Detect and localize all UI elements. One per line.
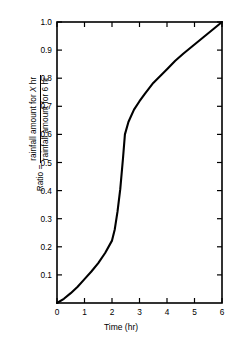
rainfall-ratio-chart-figure: 0.10.20.30.40.50.60.70.80.91.0 0123456 R… bbox=[0, 0, 242, 343]
x-tick-label: 3 bbox=[133, 308, 147, 316]
x-tick-label: 5 bbox=[188, 308, 202, 316]
y-tick-label: 0.7 bbox=[28, 102, 52, 110]
y-tick-label: 0.4 bbox=[28, 187, 52, 195]
y-tick-label: 0.1 bbox=[28, 271, 52, 279]
x-tick-label: 6 bbox=[215, 308, 229, 316]
x-tick-label: 2 bbox=[105, 308, 119, 316]
x-tick-label: 4 bbox=[160, 308, 174, 316]
y-tick-label: 0.3 bbox=[28, 215, 52, 223]
x-axis-tick-marks bbox=[57, 22, 222, 303]
x-tick-label: 0 bbox=[50, 308, 64, 316]
rainfall-ratio-curve bbox=[57, 22, 222, 303]
x-axis-label: Time (hr) bbox=[0, 322, 242, 332]
y-tick-label: 0.2 bbox=[28, 243, 52, 251]
y-axis-tick-marks bbox=[57, 22, 222, 275]
y-tick-label: 0.5 bbox=[28, 159, 52, 167]
axis-frame bbox=[57, 22, 222, 303]
y-tick-label: 0.8 bbox=[28, 74, 52, 82]
y-tick-label: 0.9 bbox=[28, 46, 52, 54]
x-tick-label: 1 bbox=[78, 308, 92, 316]
y-tick-label: 0.6 bbox=[28, 130, 52, 138]
y-tick-label: 1.0 bbox=[28, 18, 52, 26]
